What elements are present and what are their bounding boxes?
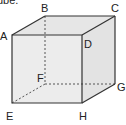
vertex-label-a: A <box>0 30 8 42</box>
vertex-label-d: D <box>84 38 92 50</box>
vertex-label-h: H <box>79 110 87 122</box>
vertex-label-g: G <box>117 81 126 93</box>
cube-diagram: A B C D E F G H <box>0 0 126 125</box>
vertex-label-b: B <box>41 2 48 14</box>
vertex-label-c: C <box>111 2 119 14</box>
vertex-label-f: F <box>37 72 44 84</box>
vertex-label-e: E <box>6 110 13 122</box>
front-face <box>12 35 82 103</box>
